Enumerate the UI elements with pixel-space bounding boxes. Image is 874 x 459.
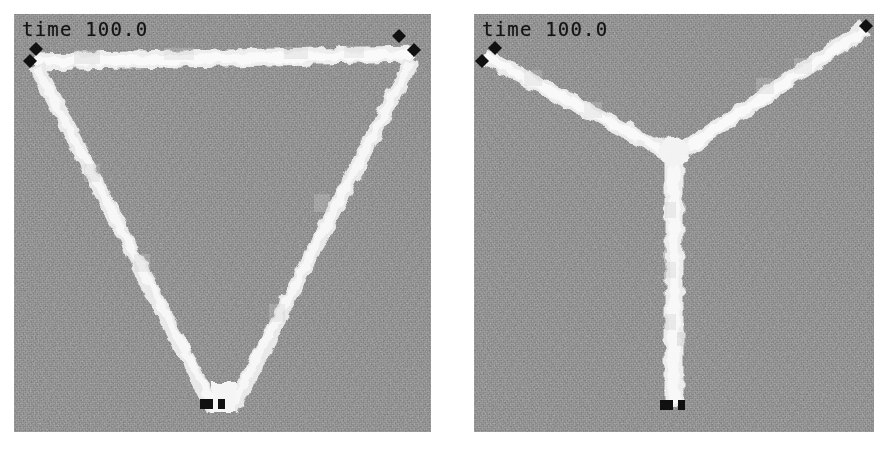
anchor-marker-square bbox=[660, 400, 673, 410]
anchor-marker-square bbox=[218, 399, 225, 409]
panel-steiner-y-configuration: time 100.0 bbox=[474, 14, 874, 432]
figure-root: time 100.0 bbox=[0, 0, 874, 459]
background-noise-dark bbox=[14, 14, 431, 432]
y-filament-svg bbox=[474, 14, 874, 432]
panel-triangle-configuration: time 100.0 bbox=[14, 14, 431, 432]
time-label: time 100.0 bbox=[22, 18, 148, 40]
time-label: time 100.0 bbox=[482, 18, 608, 40]
junction-blob bbox=[659, 137, 689, 167]
anchor-marker-square bbox=[200, 399, 213, 409]
triangle-filament-svg bbox=[14, 14, 431, 432]
anchor-marker-square bbox=[678, 400, 685, 410]
